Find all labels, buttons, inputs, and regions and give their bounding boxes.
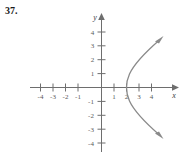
x-axis-arrowhead [172,84,179,91]
y-axis-group [98,13,105,152]
x-tick-label--4: -4 [38,93,44,101]
y-tick-label-1: 1 [91,70,95,78]
y-axis-label: y [92,13,97,22]
y-tick-label-4: 4 [91,29,95,37]
x-tick-label--2: -2 [63,93,69,101]
y-tick-label--2: -2 [88,112,94,120]
x-tick-label-3: 3 [137,93,141,101]
x-tick-label--3: -3 [50,93,56,101]
coordinate-plane-graph: -4 -3 -2 -1 1 2 3 4 4 3 2 1 -1 -2 -3 -4 … [0,0,189,156]
x-axis-label: x [171,91,176,100]
y-tick-label-2: 2 [91,56,95,64]
figure-panel: 37. [0,0,189,156]
y-axis-arrowhead [98,13,105,20]
y-tick-label--1: -1 [88,98,94,106]
x-tick-label--1: -1 [75,93,81,101]
x-tick-labels: -4 -3 -2 -1 1 2 3 4 [38,93,154,101]
x-tick-label-4: 4 [150,93,154,101]
y-tick-label--4: -4 [88,140,94,148]
y-tick-label-3: 3 [91,42,95,50]
y-tick-label--3: -3 [88,126,94,134]
x-tick-label-1: 1 [112,93,116,101]
x-axis-group [30,84,179,91]
